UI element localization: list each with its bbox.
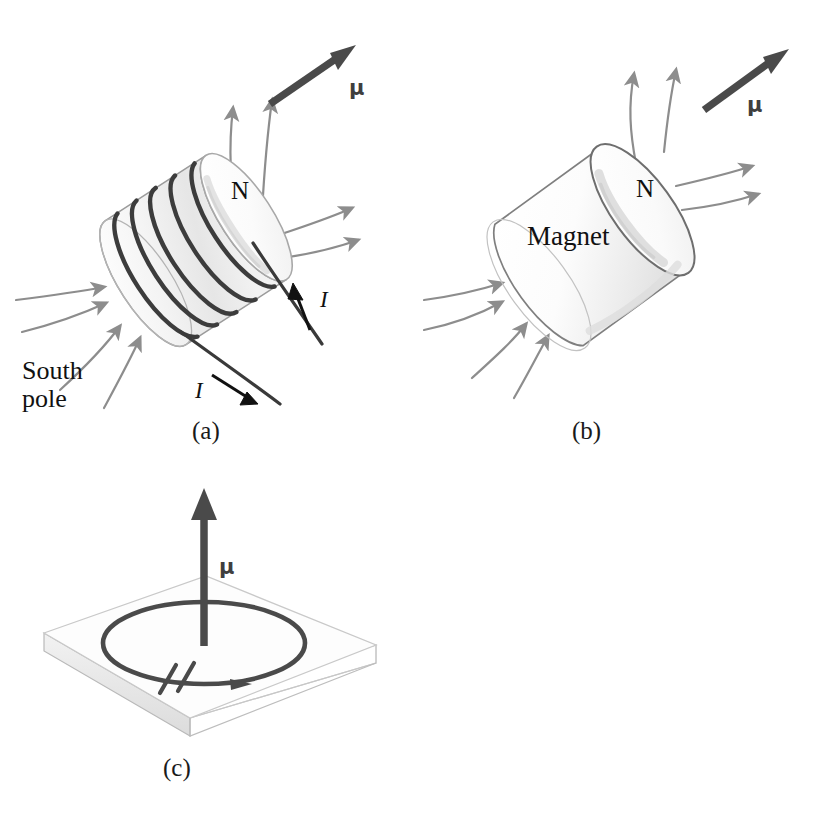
north-pole-label-a: N	[231, 178, 249, 203]
magnetic-dipole-figure: μ N South pole I I (a)	[0, 0, 828, 825]
panel-c-graphic	[0, 460, 414, 825]
south-pole-label-line1: South	[22, 358, 83, 384]
moment-label-b: μ	[747, 95, 762, 116]
panel-caption-a: (a)	[192, 418, 220, 443]
south-pole-label-line2: pole	[22, 386, 67, 412]
panel-b-graphic	[414, 0, 828, 460]
current-arrow-lower	[212, 375, 258, 405]
panel-caption-c: (c)	[163, 755, 191, 780]
current-label-upper: I	[320, 288, 328, 311]
current-label-lower: I	[195, 379, 203, 402]
moment-arrow-a	[270, 45, 356, 104]
moment-label-a: μ	[349, 78, 364, 99]
panel-a-solenoid: μ N South pole I I (a)	[0, 0, 414, 460]
moment-label-c: μ	[219, 557, 234, 578]
magnet-body-label: Magnet	[527, 223, 609, 250]
panel-c-current-loop: μ (c)	[0, 460, 414, 825]
current-arrow-upper	[288, 283, 310, 330]
north-pole-label-b: N	[636, 176, 654, 201]
panel-caption-b: (b)	[572, 418, 601, 443]
solenoid-body	[84, 141, 309, 359]
panel-b-magnet: μ N Magnet (b)	[414, 0, 828, 460]
